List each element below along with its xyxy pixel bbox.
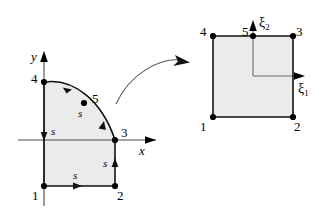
physical-node-label-4: 4	[31, 72, 38, 85]
figure-vector-layer	[0, 0, 328, 217]
xi2-axis-arrowhead	[249, 20, 257, 31]
mapping-arrow-head	[173, 55, 190, 66]
x-axis-label: x	[139, 144, 145, 157]
xi1-axis-label: ξ1	[298, 82, 309, 98]
parent-element-group	[210, 20, 305, 120]
side-label-s-bottom: s	[73, 170, 77, 181]
y-axis-label: y	[31, 50, 37, 63]
y-axis-arrowhead	[40, 51, 48, 62]
xi1-subscript: 1	[304, 88, 309, 98]
side-label-s-right: s	[103, 158, 107, 169]
parent-node-1	[210, 114, 216, 120]
parent-node-label-4: 4	[200, 25, 207, 38]
physical-node-3	[112, 137, 118, 143]
physical-node-4	[41, 79, 47, 85]
parent-node-4	[210, 33, 216, 39]
parent-node-label-2: 2	[294, 120, 301, 133]
parent-node-5	[250, 33, 256, 39]
parent-node-label-1: 1	[200, 120, 207, 133]
figure-canvas: 4 5 3 1 2 y x s s s s 4 5 3 1 2 ξ2 ξ1	[0, 0, 328, 217]
parent-node-label-3: 3	[296, 25, 303, 38]
physical-node-label-2: 2	[117, 189, 124, 202]
mapping-arrow-curve	[116, 60, 181, 104]
side-label-s-arc: s	[78, 108, 82, 119]
physical-node-label-1: 1	[32, 189, 39, 202]
mapping-arrow-group	[116, 55, 190, 104]
side-label-s-left: s	[51, 126, 55, 137]
physical-node-label-5: 5	[92, 92, 99, 105]
physical-node-1	[41, 183, 47, 189]
physical-node-5	[81, 100, 87, 106]
xi2-subscript: 2	[265, 22, 270, 32]
xi2-axis-label: ξ2	[259, 16, 270, 32]
parent-node-label-5: 5	[242, 25, 249, 38]
xi1-axis-arrowhead	[294, 72, 305, 80]
physical-node-label-3: 3	[121, 126, 128, 139]
physical-element-group	[18, 51, 156, 206]
x-axis-arrowhead	[145, 136, 156, 144]
